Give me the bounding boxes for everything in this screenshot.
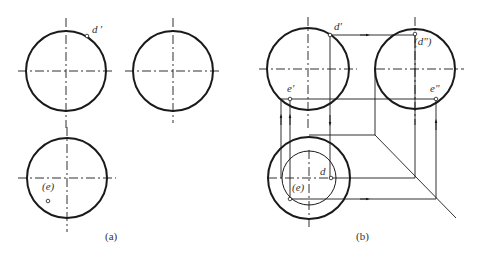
point-e-double-prime bbox=[434, 97, 438, 101]
orthographic-projection-diagram: d ′ (e) (a) bbox=[0, 0, 479, 255]
label-d: d bbox=[320, 165, 326, 177]
caption-b: (b) bbox=[356, 230, 369, 243]
label-d-prime-a: d ′ bbox=[92, 23, 103, 35]
label-e-double-prime: e″ bbox=[430, 82, 440, 94]
projection-lines bbox=[281, 35, 456, 218]
label-e-a: (e) bbox=[42, 180, 55, 193]
panel-b bbox=[259, 17, 464, 230]
point-e bbox=[46, 199, 50, 203]
panel-b-top-view bbox=[268, 137, 350, 230]
miter-line bbox=[375, 135, 456, 218]
point-d-prime bbox=[85, 34, 89, 38]
label-e-prime: e′ bbox=[287, 82, 295, 94]
panel-b-front-view bbox=[259, 17, 357, 130]
label-d-double-prime: (d″) bbox=[414, 35, 432, 48]
panel-b-side-view bbox=[375, 17, 464, 125]
panel-a-top-view bbox=[18, 127, 116, 232]
label-d-prime-b: d′ bbox=[334, 20, 343, 32]
panel-a-side-view bbox=[125, 18, 222, 123]
point-e bbox=[288, 197, 292, 201]
caption-a: (a) bbox=[105, 230, 118, 243]
label-e-b: (e) bbox=[292, 181, 305, 194]
point-d-prime bbox=[328, 33, 332, 37]
point-e-prime bbox=[288, 97, 292, 101]
point-d bbox=[329, 176, 333, 180]
panel-a bbox=[18, 18, 222, 232]
